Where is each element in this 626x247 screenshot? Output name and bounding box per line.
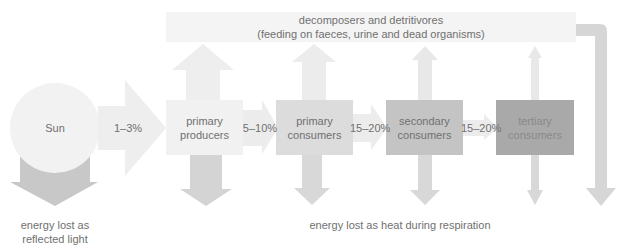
decomposers-label: decomposers and detritivores (feeding on…	[166, 13, 576, 41]
transfer-label-1: 1–3%	[100, 121, 156, 135]
reflected-caption-line1: energy lost as	[0, 218, 110, 232]
decomposers-line2: (feeding on faeces, urine and dead organ…	[166, 27, 576, 41]
primary-consumers-line1: primary	[296, 114, 333, 128]
secondary-consumers-down-arrow	[410, 155, 440, 205]
return-arrow	[576, 24, 616, 206]
transfer-label-3: 15–20%	[350, 121, 388, 135]
producers-up-arrow	[172, 44, 234, 100]
secondary-consumers-line1: secondary	[399, 114, 450, 128]
primary-consumers-label: primary consumers	[276, 100, 353, 155]
secondary-consumers-up-arrow	[412, 46, 438, 100]
secondary-consumers-label: secondary consumers	[386, 100, 463, 155]
primary-producers-label: primary producers	[166, 100, 243, 155]
tertiary-consumers-down-arrow	[527, 155, 543, 205]
sun-label: Sun	[10, 121, 100, 135]
reflected-caption-line2: reflected light	[0, 232, 110, 246]
respiration-caption: energy lost as heat during respiration	[300, 218, 500, 232]
reflected-light-caption: energy lost as reflected light	[0, 218, 110, 246]
tertiary-consumers-label: tertiary consumers	[496, 100, 574, 155]
primary-producers-line2: producers	[180, 128, 229, 142]
tertiary-consumers-line1: tertiary	[518, 114, 552, 128]
tertiary-consumers-up-arrow	[528, 46, 542, 100]
primary-consumers-up-arrow	[292, 44, 336, 100]
secondary-consumers-line2: consumers	[398, 128, 452, 142]
primary-producers-line1: primary	[186, 114, 223, 128]
transfer-label-2: 5–10%	[242, 121, 278, 135]
transfer-label-4: 15–20%	[461, 121, 499, 135]
decomposers-line1: decomposers and detritivores	[166, 13, 576, 27]
primary-consumers-line2: consumers	[288, 128, 342, 142]
tertiary-consumers-line2: consumers	[508, 128, 562, 142]
primary-consumers-down-arrow	[294, 155, 330, 205]
producers-down-arrow	[180, 155, 232, 206]
